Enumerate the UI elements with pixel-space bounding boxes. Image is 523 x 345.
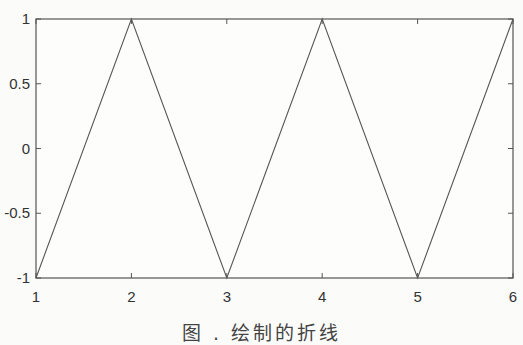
figure-caption: 图 . 绘制的折线 — [0, 318, 523, 345]
x-tick-label: 4 — [318, 288, 326, 305]
y-tick-label: -1 — [17, 269, 30, 286]
y-tick-label: 0 — [22, 140, 30, 157]
y-tick-label: 0.5 — [9, 75, 30, 92]
x-tick-label: 2 — [127, 288, 135, 305]
x-tick-label: 1 — [32, 288, 40, 305]
x-tick-label: 6 — [509, 288, 517, 305]
y-tick-label: 1 — [22, 10, 30, 27]
x-tick-label: 5 — [413, 288, 421, 305]
x-tick-label: 3 — [223, 288, 231, 305]
y-tick-label: -0.5 — [4, 204, 30, 221]
